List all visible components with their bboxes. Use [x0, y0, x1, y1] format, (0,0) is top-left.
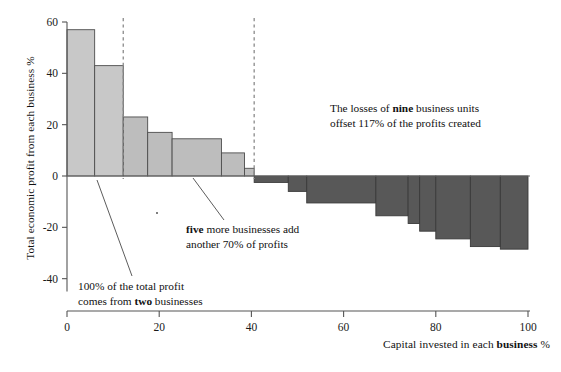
annotation-hundred-line1: 100% of the total profit	[78, 280, 184, 292]
x-axis-title-text-post: %	[538, 338, 550, 350]
annotation-five-post: more businesses add	[204, 223, 300, 235]
annotation-hundred-pre: comes from	[78, 295, 134, 307]
annotation-losses-post: business units	[413, 102, 479, 114]
annotation-losses-bold: nine	[392, 102, 413, 114]
annotation-hundred-post: businesses	[152, 295, 203, 307]
annotation-five-bold: five	[186, 223, 204, 235]
economic-profit-chart: 6040200-20-40020406080100 Total economic…	[0, 0, 561, 372]
x-tick-label-80: 80	[430, 321, 442, 333]
leader-line-hundred	[97, 180, 132, 276]
annotation-hundred: 100% of the total profit comes from two …	[78, 279, 293, 309]
annotation-five-line2: another 70% of profits	[186, 238, 288, 250]
bar-7-positive	[244, 168, 254, 176]
bar-13-negative	[420, 176, 436, 231]
y-tick-label-40: 40	[47, 67, 59, 79]
x-tick-label-100: 100	[519, 321, 537, 333]
bar-9-negative	[288, 176, 306, 191]
bar-12-negative	[408, 176, 420, 223]
x-axis-title-text-pre: Capital invested in each	[383, 338, 497, 350]
stray-dot-mark	[156, 212, 158, 214]
bar-8-negative	[254, 176, 288, 182]
x-tick-label-60: 60	[338, 321, 350, 333]
leader-line-five	[193, 178, 224, 220]
y-tick-label-20: 20	[47, 119, 59, 131]
bar-14-negative	[436, 176, 471, 239]
annotation-losses-pre: The losses of	[330, 102, 392, 114]
y-axis-title: Total economic profit from each business…	[24, 42, 36, 274]
bar-2-positive	[95, 66, 124, 176]
bar-15-negative	[470, 176, 500, 247]
y-tick-label--20: -20	[43, 221, 59, 233]
annotation-hundred-bold: two	[134, 295, 152, 307]
annotation-five: five more businesses add another 70% of …	[186, 222, 366, 252]
annotation-losses-line2: offset 117% of the profits created	[330, 117, 481, 129]
bar-6-positive	[221, 153, 244, 176]
bar-16-negative	[500, 176, 528, 249]
bar-10-negative	[307, 176, 376, 203]
x-tick-label-40: 40	[246, 321, 258, 333]
bar-5-positive	[172, 139, 221, 176]
chart-plot-area: 6040200-20-40020406080100	[0, 0, 561, 372]
bar-3-positive	[123, 117, 147, 176]
x-tick-label-0: 0	[64, 321, 70, 333]
y-tick-label-0: 0	[52, 170, 58, 182]
bar-1-positive	[67, 30, 95, 176]
x-axis-title: Capital invested in each business %	[383, 338, 550, 350]
x-tick-label-20: 20	[153, 321, 165, 333]
bar-11-negative	[376, 176, 408, 216]
bars-layer	[67, 30, 528, 249]
annotation-losses: The losses of nine business units offset…	[330, 101, 545, 131]
y-tick-label-60: 60	[47, 16, 59, 28]
x-axis-title-bold: business	[497, 338, 538, 350]
bar-4-positive	[148, 132, 172, 176]
y-tick-label--40: -40	[43, 273, 59, 285]
